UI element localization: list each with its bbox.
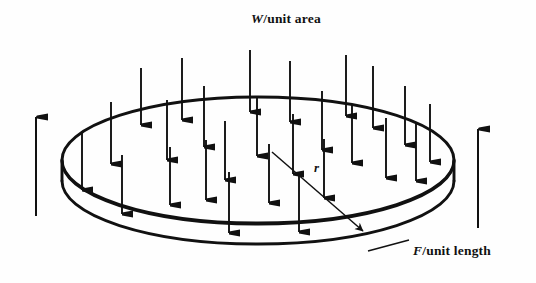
disk-bottom-rim-front-arc xyxy=(62,161,454,224)
disk-top-surface-outline xyxy=(62,97,454,223)
edge-force-unit-text: /unit length xyxy=(422,243,491,258)
edge-force-symbol: F xyxy=(413,243,422,258)
distributed-load-label: W/unit area xyxy=(251,11,321,27)
edge-label-leader-line xyxy=(368,240,409,251)
load-symbol: W xyxy=(251,11,263,26)
load-unit-text: /unit area xyxy=(263,11,321,26)
radius-label: r xyxy=(314,160,319,176)
edge-force-label: F/unit length xyxy=(413,243,491,259)
disk-load-diagram: W/unit area F/unit length r xyxy=(0,0,536,283)
diagram-canvas xyxy=(0,0,536,283)
disk-body xyxy=(62,97,454,244)
load-arrow-group xyxy=(82,50,430,233)
disk-bottom-rim-outer-arc xyxy=(62,181,454,244)
